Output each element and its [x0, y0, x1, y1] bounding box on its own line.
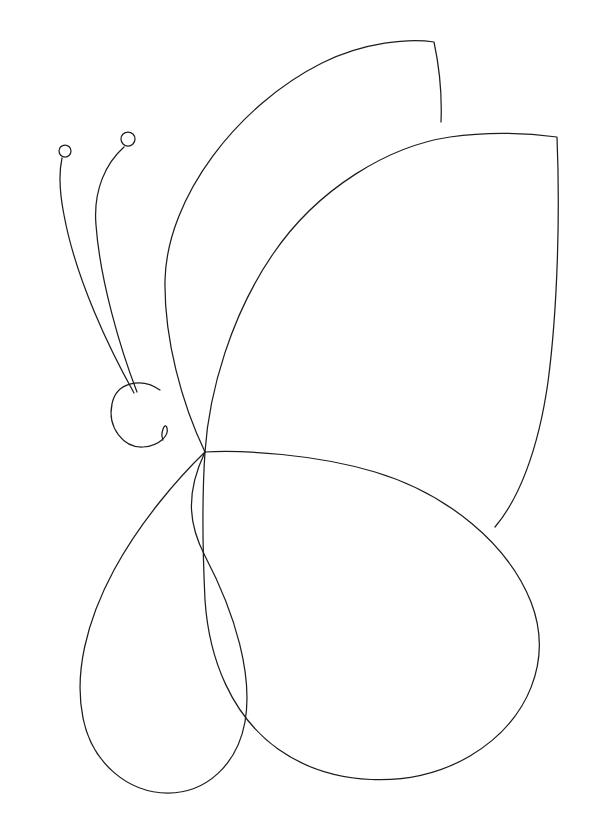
- drawing-canvas: [0, 0, 594, 835]
- butterfly-illustration: [0, 0, 594, 835]
- canvas-background: [0, 0, 594, 835]
